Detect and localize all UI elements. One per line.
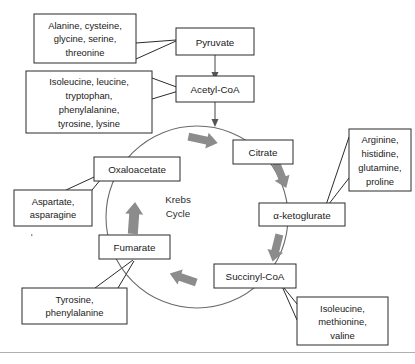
cycle-center-line1: Krebs	[165, 194, 191, 205]
cycle-arrow-top	[187, 129, 220, 151]
node-fumarate-label: Fumarate	[114, 242, 156, 253]
node-citrate: Citrate	[233, 140, 293, 164]
amino-acids-to-acetyl-coa-line-1: Isoleucine, leucine,	[49, 76, 129, 87]
amino-acids-to-acetyl-coa-line-2: tryptophan,	[66, 90, 113, 101]
amino-acids-to-alpha-ketoglutarate: Arginine, histidine, glutamine, proline	[349, 129, 411, 191]
pathway-node-boxes: Pyruvate Acetyl-CoA Citrate α-ketoglurat…	[94, 28, 345, 288]
node-pyruvate-label: Pyruvate	[196, 37, 235, 48]
node-succinyl-coa: Succinyl-CoA	[214, 264, 296, 288]
node-alpha-ketoglutarate-label: α-ketoglurate	[273, 210, 331, 221]
amino-acids-to-fumarate: Tyrosine, phenylalanine	[22, 288, 127, 324]
amino-acids-to-pyruvate-line-2: glycine, serine,	[54, 33, 117, 44]
amino-acids-to-acetyl-coa-line-3: phenylalanine,	[59, 104, 119, 115]
amino-acids-to-akg-line-1: Arginine,	[361, 134, 398, 145]
amino-acids-to-acetyl-coa-line-4: tyrosine, lysine	[58, 118, 120, 129]
node-oxaloacetate-label: Oxaloacetate	[108, 164, 166, 175]
amino-acids-to-oxaloacetate-line-1: Aspartate,	[32, 196, 75, 207]
amino-acids-to-akg-line-3: glutamine,	[358, 162, 401, 173]
cycle-center-label: Krebs Cycle	[165, 194, 191, 219]
amino-acids-to-oxaloacetate: Aspartate, asparagine	[14, 190, 92, 226]
connector-tyr-phe-to-fumarate-upper	[95, 260, 133, 288]
amino-acids-to-akg-line-2: histidine,	[361, 148, 398, 159]
connector-arginine-to-akg-upper	[325, 137, 349, 208]
connector-alanine-to-pyruvate-lower	[136, 41, 176, 59]
node-alpha-ketoglutarate: α-ketoglurate	[259, 203, 345, 226]
node-citrate-label: Citrate	[249, 147, 278, 158]
amino-acids-to-succinyl-coa-line-2: methionine,	[318, 316, 366, 327]
connector-alanine-to-pyruvate-upper	[136, 40, 176, 43]
amino-acid-boxes: Alanine, cysteine, glycine, serine, thre…	[14, 14, 411, 345]
amino-acids-to-acetyl-coa: Isoleucine, leucine, tryptophan, phenyla…	[26, 71, 152, 133]
cycle-arrow-fumarate-to-oxaloacetate	[124, 201, 144, 234]
amino-acids-to-pyruvate-line-1: Alanine, cysteine,	[48, 20, 121, 31]
amino-acids-to-fumarate-line-2: phenylalanine	[46, 307, 104, 318]
cycle-arrow-succinylcoa-to-fumarate	[167, 266, 199, 290]
node-fumarate: Fumarate	[99, 235, 170, 259]
krebs-cycle-diagram: Pyruvate Acetyl-CoA Citrate α-ketoglurat…	[0, 0, 415, 364]
krebs-cycle-figure: Pyruvate Acetyl-CoA Citrate α-ketoglurat…	[0, 0, 415, 364]
amino-acids-to-pyruvate: Alanine, cysteine, glycine, serine, thre…	[34, 14, 136, 63]
amino-acids-to-oxaloacetate-line-2: asparagine	[30, 209, 76, 220]
node-acetyl-coa: Acetyl-CoA	[176, 76, 254, 102]
scan-artifact-speck	[31, 234, 32, 236]
amino-acids-to-succinyl-coa-line-3: valine	[330, 330, 355, 341]
amino-acids-to-fumarate-line-1: Tyrosine,	[55, 294, 93, 305]
node-succinyl-coa-label: Succinyl-CoA	[226, 271, 285, 282]
node-pyruvate: Pyruvate	[176, 28, 254, 55]
amino-acids-to-succinyl-coa: Isoleucine, methionine, valine	[297, 297, 388, 345]
connector-ile-met-val-to-succinylcoa-lower	[281, 284, 297, 320]
arrowhead-acetylcoa-to-cycle	[212, 119, 219, 127]
cycle-arrow-akg-to-succinylcoa	[265, 232, 287, 263]
amino-acids-to-succinyl-coa-line-1: Isoleucine,	[320, 303, 365, 314]
amino-acids-to-pyruvate-line-3: threonine	[65, 47, 104, 58]
amino-acids-to-akg-line-4: proline	[366, 176, 394, 187]
node-acetyl-coa-label: Acetyl-CoA	[191, 84, 240, 95]
cycle-center-line2: Cycle	[166, 208, 191, 219]
node-oxaloacetate: Oxaloacetate	[94, 157, 180, 181]
